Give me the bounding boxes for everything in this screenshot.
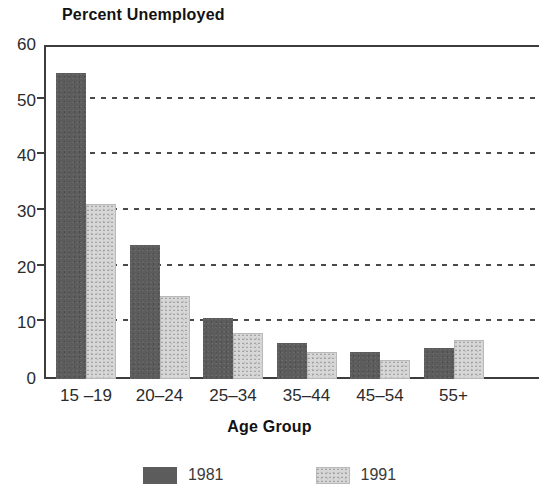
bar	[160, 296, 190, 380]
y-axis-label-0: 0	[2, 369, 36, 389]
bar	[203, 318, 233, 379]
bar-group	[277, 45, 337, 379]
y-axis-label-20: 20	[2, 258, 36, 278]
legend-item-1981: 1981	[143, 466, 224, 484]
bar	[86, 204, 116, 379]
x-axis-title: Age Group	[0, 418, 539, 436]
bar-group	[424, 45, 484, 379]
y-axis-label-30: 30	[2, 202, 36, 222]
bar-group	[130, 45, 190, 379]
bar-group	[350, 45, 410, 379]
bar	[307, 352, 337, 379]
chart-legend: 1981 1991	[0, 466, 539, 484]
bar-group	[56, 45, 116, 379]
y-tick-20	[37, 264, 46, 266]
bar	[454, 340, 484, 379]
bar	[277, 343, 307, 379]
legend-label-1991: 1991	[361, 466, 397, 484]
bar	[56, 73, 86, 379]
chart-title: Percent Unemployed	[62, 6, 225, 24]
bar	[424, 348, 454, 379]
bar-group	[203, 45, 263, 379]
legend-item-1991: 1991	[316, 466, 397, 484]
unemployment-bar-chart: Percent Unemployed 0102030405060 15 –192…	[0, 0, 539, 498]
y-axis-label-10: 10	[2, 313, 36, 333]
bar	[233, 333, 263, 379]
y-tick-40	[37, 152, 46, 154]
bar	[350, 352, 380, 379]
y-tick-50	[37, 97, 46, 99]
legend-swatch-1991	[316, 467, 350, 484]
legend-swatch-1981	[143, 467, 177, 484]
legend-label-1981: 1981	[188, 466, 224, 484]
y-tick-30	[37, 208, 46, 210]
x-axis-label: 55+	[408, 386, 500, 406]
bar	[130, 245, 160, 379]
bar	[380, 360, 410, 379]
y-tick-10	[37, 319, 46, 321]
y-axis-label-50: 50	[2, 91, 36, 111]
y-axis-label-60: 60	[2, 35, 36, 55]
y-axis-label-40: 40	[2, 146, 36, 166]
